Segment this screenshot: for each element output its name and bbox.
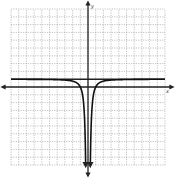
graph: x y bbox=[0, 0, 175, 178]
y-axis-label: y bbox=[90, 3, 95, 10]
curve-right-branch bbox=[90, 79, 165, 165]
x-axis-label: x bbox=[165, 88, 169, 94]
curve-left-branch bbox=[11, 79, 86, 165]
